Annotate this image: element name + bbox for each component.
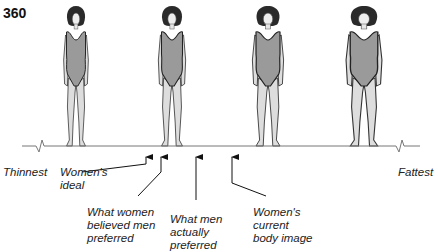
figure-3: [252, 6, 283, 146]
label-believed-men-preferred: What women believed men preferred: [87, 206, 155, 245]
marker-arrows: [82, 157, 266, 200]
figure-4-fattest: [346, 6, 382, 146]
fattest-label: Fattest: [398, 166, 433, 179]
label-current-body-image: Women's current body image: [253, 206, 312, 245]
arrow-believed-men-preferred: [138, 157, 161, 196]
figure-1-thinnest: [64, 6, 89, 146]
figure-2: [158, 6, 185, 146]
thinnest-label: Thinnest: [3, 166, 47, 179]
label-womens-ideal: Women's ideal: [60, 166, 108, 192]
arrow-current-body-image: [232, 157, 266, 196]
label-men-actually-preferred: What men actually preferred: [170, 213, 222, 252]
